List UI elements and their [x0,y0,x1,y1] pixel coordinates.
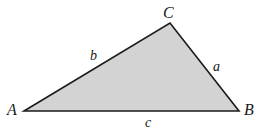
side-label-b: b [90,48,97,63]
side-label-c: c [145,115,152,130]
vertex-label-a: A [6,101,17,118]
triangle-abc [24,23,239,111]
side-label-a: a [213,59,220,74]
vertex-label-c: C [163,4,174,21]
triangle-diagram: A B C b a c [0,0,261,131]
vertex-label-b: B [244,101,254,118]
